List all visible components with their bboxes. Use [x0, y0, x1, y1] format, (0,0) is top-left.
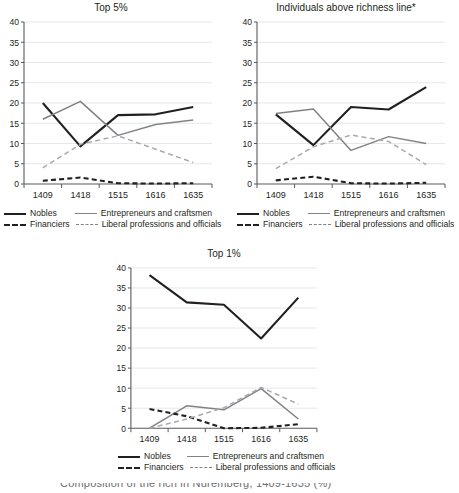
legend-richness: Nobles Entrepreneurs and craftsmen Finan…: [233, 208, 459, 230]
legend-key-financiers-icon: [118, 467, 140, 469]
legend-key-nobles-icon: [4, 213, 26, 215]
y-tick-label: 5: [121, 404, 126, 414]
chart-panel-richness: Individuals above richness line* 0510152…: [233, 2, 459, 230]
x-tick-label: 1418: [177, 434, 197, 444]
line-chart-svg-top5: 051015202530354014091418151516161635: [0, 14, 222, 206]
y-tick-label: 35: [116, 283, 126, 293]
series-line: [276, 87, 426, 145]
x-tick-label: 1635: [288, 434, 308, 444]
legend-item-nobles: Nobles: [118, 451, 171, 462]
legend-label-nobles: Nobles: [263, 208, 290, 219]
y-tick-label: 25: [242, 78, 252, 88]
x-tick-label: 1616: [251, 434, 271, 444]
y-tick-label: 20: [242, 98, 252, 108]
legend-label-liberal: Liberal professions and officials: [102, 219, 222, 230]
x-tick-label: 1635: [416, 190, 436, 200]
legend-key-liberal-icon: [190, 467, 212, 468]
chart-panel-top1: Top 1% 051015202530354014091418151516161…: [104, 248, 344, 473]
legend-key-financiers-icon: [237, 224, 259, 226]
chart-title-richness: Individuals above richness line*: [233, 2, 459, 14]
chart-title-top5: Top 5%: [0, 2, 222, 14]
plot-area-top1: 051015202530354014091418151516161635: [104, 260, 344, 450]
y-tick-label: 30: [9, 58, 19, 68]
series-line: [43, 136, 193, 168]
x-tick-label: 1409: [33, 190, 53, 200]
figure-caption-cutoff: Composition of the rich in Nuremberg, 14…: [0, 483, 459, 493]
legend-row-2: Financiers Liberal professions and offic…: [233, 219, 459, 230]
y-tick-label: 10: [242, 139, 252, 149]
series-line: [43, 178, 193, 184]
x-tick-label: 1409: [266, 190, 286, 200]
y-tick-label: 10: [116, 384, 126, 394]
legend-label-nobles: Nobles: [144, 451, 171, 462]
y-tick-label: 40: [116, 263, 126, 273]
legend-row-1: Nobles Entrepreneurs and craftsmen: [104, 451, 344, 462]
y-tick-label: 0: [121, 424, 126, 434]
series-line: [150, 275, 299, 338]
x-tick-label: 1635: [183, 190, 203, 200]
x-tick-label: 1418: [303, 190, 323, 200]
series-line: [276, 109, 426, 150]
figure-root: Top 5% 051015202530354014091418151516161…: [0, 0, 459, 493]
y-tick-label: 25: [9, 78, 19, 88]
y-tick-label: 10: [9, 139, 19, 149]
x-tick-label: 1409: [140, 434, 160, 444]
legend-item-nobles: Nobles: [4, 208, 57, 219]
legend-label-entrepreneurs: Entrepreneurs and craftsmen: [213, 451, 324, 462]
legend-row-1: Nobles Entrepreneurs and craftsmen: [0, 208, 222, 219]
legend-label-financiers: Financiers: [144, 462, 184, 473]
series-line: [43, 103, 193, 146]
legend-label-liberal: Liberal professions and officials: [216, 462, 336, 473]
x-tick-label: 1515: [341, 190, 361, 200]
y-tick-label: 40: [9, 17, 19, 27]
legend-item-nobles: Nobles: [237, 208, 290, 219]
y-tick-label: 0: [247, 179, 252, 189]
chart-title-top1: Top 1%: [104, 248, 344, 260]
y-tick-label: 30: [116, 303, 126, 313]
legend-item-entrepreneurs: Entrepreneurs and craftsmen: [75, 208, 212, 219]
line-chart-svg-richness: 051015202530354014091418151516161635: [233, 14, 455, 206]
legend-label-entrepreneurs: Entrepreneurs and craftsmen: [101, 208, 212, 219]
legend-item-financiers: Financiers: [237, 219, 303, 230]
legend-item-liberal: Liberal professions and officials: [309, 219, 455, 230]
legend-row-1: Nobles Entrepreneurs and craftsmen: [233, 208, 459, 219]
y-tick-label: 40: [242, 17, 252, 27]
legend-key-entrepreneurs-icon: [75, 213, 97, 214]
legend-item-liberal: Liberal professions and officials: [190, 462, 336, 473]
chart-panel-top5: Top 5% 051015202530354014091418151516161…: [0, 2, 222, 230]
legend-item-financiers: Financiers: [118, 462, 184, 473]
x-tick-label: 1515: [214, 434, 234, 444]
x-tick-label: 1616: [146, 190, 166, 200]
legend-key-liberal-icon: [309, 224, 331, 225]
y-tick-label: 0: [14, 179, 19, 189]
legend-item-entrepreneurs: Entrepreneurs and craftsmen: [308, 208, 445, 219]
y-tick-label: 15: [9, 119, 19, 129]
series-line: [276, 177, 426, 184]
legend-key-nobles-icon: [118, 456, 140, 458]
y-tick-label: 20: [116, 343, 126, 353]
legend-top1: Nobles Entrepreneurs and craftsmen Finan…: [104, 451, 344, 473]
legend-item-liberal: Liberal professions and officials: [76, 219, 222, 230]
y-tick-label: 5: [247, 159, 252, 169]
series-line: [150, 409, 299, 428]
y-tick-label: 5: [14, 159, 19, 169]
legend-item-entrepreneurs: Entrepreneurs and craftsmen: [187, 451, 324, 462]
y-tick-label: 25: [116, 323, 126, 333]
legend-label-nobles: Nobles: [30, 208, 57, 219]
legend-key-financiers-icon: [4, 224, 26, 226]
x-tick-label: 1515: [108, 190, 128, 200]
legend-row-2: Financiers Liberal professions and offic…: [0, 219, 222, 230]
legend-label-entrepreneurs: Entrepreneurs and craftsmen: [334, 208, 445, 219]
legend-label-liberal: Liberal professions and officials: [335, 219, 455, 230]
figure-caption-text: Composition of the rich in Nuremberg, 14…: [60, 483, 331, 489]
y-tick-label: 35: [242, 38, 252, 48]
legend-key-nobles-icon: [237, 213, 259, 215]
line-chart-svg-top1: 051015202530354014091418151516161635: [104, 260, 330, 450]
plot-area-richness: 051015202530354014091418151516161635: [233, 14, 459, 206]
legend-key-liberal-icon: [76, 224, 98, 225]
y-tick-label: 15: [242, 119, 252, 129]
y-tick-label: 30: [242, 58, 252, 68]
legend-label-financiers: Financiers: [30, 219, 70, 230]
legend-item-financiers: Financiers: [4, 219, 70, 230]
y-tick-label: 35: [9, 38, 19, 48]
